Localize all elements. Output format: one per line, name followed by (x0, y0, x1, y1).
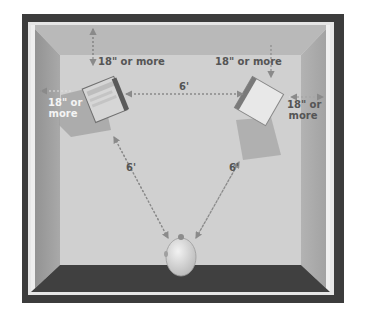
top-right-gap-label: 18" or more (215, 56, 282, 67)
top-left-gap-label: 18" or more (98, 56, 165, 67)
room-walls (31, 25, 330, 292)
left-listener-distance-label: 6' (126, 162, 136, 173)
right-side-gap-line2: more (287, 110, 319, 121)
right-listener-distance-label: 6' (229, 162, 239, 173)
left-wall (31, 25, 60, 292)
left-side-gap-line2: more (48, 108, 78, 119)
right-side-gap-label: 18" or more (287, 99, 319, 121)
right-side-gap-line1: 18" or (287, 99, 319, 110)
room: 18" or more 18" or more 18" or more 18" … (31, 25, 330, 292)
right-wall (301, 25, 330, 292)
back-wall (31, 25, 330, 55)
left-side-gap-label: 18" or more (48, 97, 78, 119)
speaker-distance-label: 6' (179, 81, 189, 92)
left-side-gap-line1: 18" or (48, 97, 78, 108)
